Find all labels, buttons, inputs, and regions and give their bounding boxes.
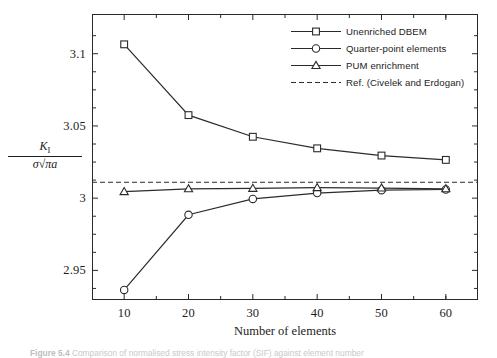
y-tick-label: 3.1 [46,46,86,61]
x-tick-label: 20 [169,306,209,321]
y-tick-label: 3.05 [46,118,86,133]
legend-label: Ref. (Civelek and Erdogan) [342,77,464,88]
legend-label: Unenriched DBEM [342,26,427,37]
y-tick-label-group: 3.13.0532.95 [42,0,86,357]
figure-caption-prefix: Figure 5.4 [30,348,70,358]
x-tick-label: 60 [426,306,466,321]
y-tick-label: 3 [46,191,86,206]
y-axis-title-numerator: KI [8,140,82,156]
legend-label: Quarter-point elements [342,43,446,54]
x-tick-label-group: 102030405060 [0,306,497,324]
y-axis-title-denominator: σ√πa [8,156,82,171]
legend-key-none [290,76,342,89]
legend-key-triangle-marker [290,59,342,72]
x-tick-label: 30 [233,306,273,321]
legend-label: PUM enrichment [342,60,419,71]
figure-caption: Figure 5.4 Comparison of normalised stre… [30,348,470,358]
legend-item: Ref. (Civelek and Erdogan) [290,75,476,90]
legend-item: PUM enrichment [290,58,476,73]
y-axis-title: KI σ√πa [8,140,82,171]
legend-key-square-marker [290,25,342,38]
y-tick-label: 2.95 [46,263,86,278]
x-tick-label: 10 [104,306,144,321]
x-tick-label: 40 [297,306,337,321]
chart-legend: Unenriched DBEMQuarter-point elementsPUM… [290,24,476,90]
x-tick-label: 50 [362,306,402,321]
x-axis-title: Number of elements [92,324,478,339]
figure-caption-text: Comparison of normalised stress intensit… [72,348,364,358]
legend-item: Unenriched DBEM [290,24,476,39]
legend-key-circle-marker [290,42,342,55]
legend-item: Quarter-point elements [290,41,476,56]
